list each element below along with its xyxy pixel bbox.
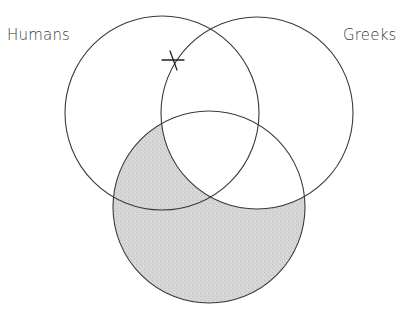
shaded-region — [0, 0, 413, 313]
greeks-label: Greeks — [343, 26, 397, 44]
venn-diagram: Humans Greeks — [0, 0, 413, 313]
venn-svg — [0, 0, 413, 313]
humans-label: Humans — [7, 26, 70, 44]
